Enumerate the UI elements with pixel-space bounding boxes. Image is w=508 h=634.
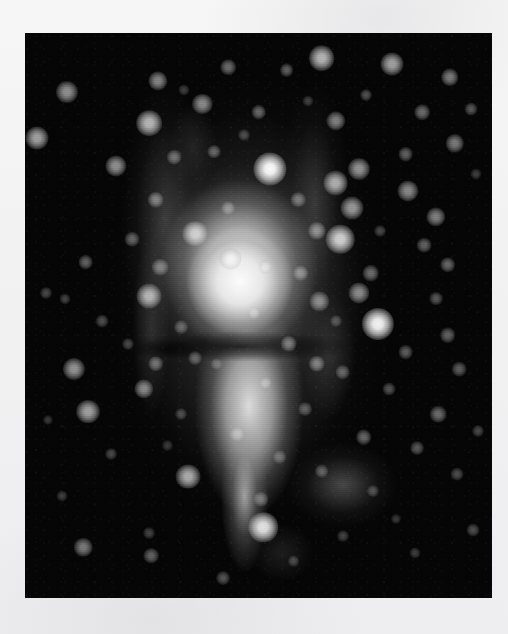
scan-lines xyxy=(25,33,492,598)
page-root xyxy=(0,0,508,634)
astronomy-image-frame xyxy=(25,33,492,598)
